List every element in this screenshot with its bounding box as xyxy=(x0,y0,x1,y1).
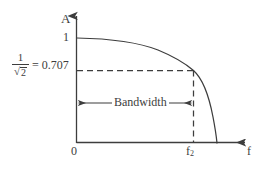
radicand: 2 xyxy=(20,67,27,78)
cutoff-tick-subscript: 2 xyxy=(190,149,194,158)
y-axis-label: A xyxy=(61,12,70,25)
one-over-root-two-fraction: 1 √ 2 xyxy=(12,52,29,78)
figure-canvas xyxy=(0,0,264,169)
fraction-denominator: √ 2 xyxy=(12,65,29,78)
frequency-response-figure: A f 1 0 f2 1 √ 2 = 0.707 Bandwidth xyxy=(0,0,264,169)
cutoff-equals-value: = 0.707 xyxy=(32,59,69,71)
bandwidth-label: Bandwidth xyxy=(112,96,169,108)
x-axis-label: f xyxy=(247,145,251,157)
cutoff-frequency-tick-label: f2 xyxy=(186,145,194,158)
response-curve xyxy=(77,38,217,143)
half-power-annotation: 1 √ 2 = 0.707 xyxy=(12,52,69,78)
fraction-numerator: 1 xyxy=(15,52,27,64)
y-axis-tick-one: 1 xyxy=(63,31,69,43)
origin-label: 0 xyxy=(71,145,77,157)
